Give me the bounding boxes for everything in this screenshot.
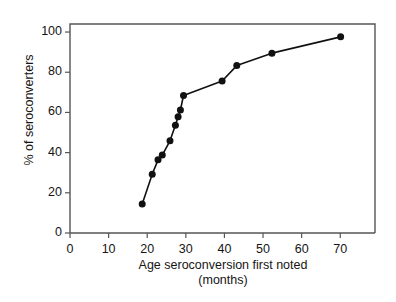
y-axis-ticks xyxy=(65,32,70,233)
data-point-marker xyxy=(219,78,226,85)
data-point-marker xyxy=(159,152,166,159)
axis-frame xyxy=(70,24,375,233)
data-point-marker xyxy=(166,137,173,144)
x-tick-label: 0 xyxy=(50,242,90,256)
data-point-marker xyxy=(268,50,275,57)
series-line xyxy=(142,37,340,204)
data-point-marker xyxy=(139,201,146,208)
x-axis-title-line2: (months) xyxy=(70,273,376,288)
x-tick-label: 60 xyxy=(282,242,322,256)
plot-border xyxy=(70,24,375,233)
data-point-marker xyxy=(175,113,182,120)
x-axis-ticks xyxy=(70,233,340,238)
series-markers xyxy=(139,33,344,207)
data-point-marker xyxy=(177,107,184,114)
data-point-marker xyxy=(172,122,179,129)
y-tick-label: 0 xyxy=(24,225,62,239)
y-axis-title: % of seroconverters xyxy=(22,5,40,215)
x-tick-label: 10 xyxy=(89,242,129,256)
data-point-marker xyxy=(180,92,187,99)
data-point-marker xyxy=(233,62,240,69)
x-tick-label: 20 xyxy=(127,242,167,256)
x-axis-title: Age seroconversion first noted (months) xyxy=(70,258,376,288)
data-point-marker xyxy=(149,171,156,178)
x-tick-label: 70 xyxy=(320,242,360,256)
data-point-marker xyxy=(337,33,344,40)
x-axis-title-line1: Age seroconversion first noted xyxy=(139,258,308,272)
x-tick-label: 40 xyxy=(204,242,244,256)
chart-figure: 020406080100010203040506070 % of serocon… xyxy=(0,0,396,302)
x-tick-label: 30 xyxy=(166,242,206,256)
x-tick-label: 50 xyxy=(243,242,283,256)
